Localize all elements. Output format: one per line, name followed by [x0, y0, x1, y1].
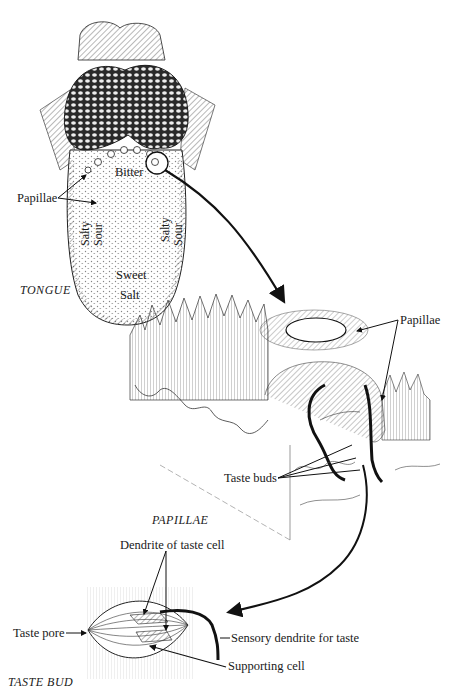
sour-right-zone-label: Sour: [171, 223, 186, 246]
sweet-zone-label: Sweet: [116, 269, 147, 282]
sensory-dendrite-label: Sensory dendrite for taste: [231, 632, 359, 645]
papillae-illustration: [130, 294, 440, 540]
diagram-artwork: [0, 0, 470, 695]
dendrite-of-taste-cell-label: Dendrite of taste cell: [120, 539, 224, 552]
papillae-caption: PAPILLAE: [152, 513, 208, 528]
salt-zone-label: Salt: [120, 289, 139, 302]
sour-left-zone-label: Sour: [91, 223, 106, 246]
papillae-label: Papillae: [400, 314, 440, 327]
taste-bud-caption: TASTE BUD: [8, 675, 73, 690]
tongue-papillae-label: Papillae: [17, 192, 57, 205]
taste-buds-label: Taste buds: [224, 472, 277, 485]
supporting-cell-label: Supporting cell: [228, 660, 305, 673]
taste-bud-illustration: [85, 587, 218, 679]
taste-pore-label: Taste pore: [13, 627, 65, 640]
bitter-zone-label: Bitter: [115, 166, 143, 179]
tongue-caption: TONGUE: [20, 283, 71, 298]
